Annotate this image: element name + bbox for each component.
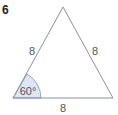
left-side-label: 8 [29, 45, 35, 57]
right-side-label: 8 [92, 45, 98, 57]
angle-label: 60° [20, 85, 37, 97]
base-label: 8 [60, 102, 66, 114]
triangle-diagram: 8 8 8 60° [0, 0, 118, 115]
